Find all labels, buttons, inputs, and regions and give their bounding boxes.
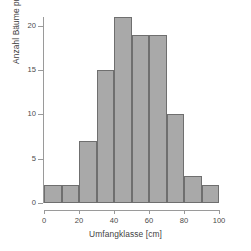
y-tick-label: 5 <box>12 155 36 163</box>
histogram-bar <box>44 185 62 203</box>
x-tick-label: 0 <box>31 216 57 225</box>
plot-area <box>44 17 219 203</box>
histogram-bar <box>62 185 80 203</box>
y-tick-mark <box>38 203 43 204</box>
x-tick-label-text: 0 <box>31 216 57 225</box>
y-tick-mark <box>38 114 43 115</box>
x-tick-label-text: 40 <box>101 216 127 225</box>
x-tick-label: 100 <box>206 216 232 225</box>
y-tick-mark <box>38 26 43 27</box>
y-tick-label: 0 <box>12 199 36 207</box>
y-tick-mark <box>38 159 43 160</box>
x-tick-label-text: 20 <box>66 216 92 225</box>
x-tick-label-text: 60 <box>136 216 162 225</box>
histogram-bar <box>79 141 97 203</box>
x-tick-label-text: 100 <box>206 216 232 225</box>
y-tick-label-text: 20 <box>14 22 36 30</box>
histogram-bar <box>167 114 185 203</box>
x-tick-label-text: 80 <box>171 216 197 225</box>
histogram-bar <box>149 35 167 203</box>
y-tick-label-text: 10 <box>14 110 36 118</box>
y-tick-label: 10 <box>12 110 36 118</box>
y-tick-label-text: 0 <box>14 199 36 207</box>
x-tick-label: 20 <box>66 216 92 225</box>
x-tick-label: 40 <box>101 216 127 225</box>
x-tick-mark <box>219 210 220 214</box>
histogram-bar <box>132 35 150 203</box>
x-axis-line <box>44 210 219 211</box>
histogram-bar <box>184 176 202 203</box>
y-tick-label: 15 <box>12 66 36 74</box>
histogram-bar <box>202 185 220 203</box>
histogram-bar <box>97 70 115 203</box>
x-tick-mark <box>184 210 185 214</box>
x-tick-mark <box>79 210 80 214</box>
y-tick-label: 20 <box>12 22 36 30</box>
x-tick-mark <box>149 210 150 214</box>
histogram-bar <box>114 17 132 203</box>
y-tick-label-text: 5 <box>14 155 36 163</box>
x-axis-label: Umfangklasse [cm] <box>0 229 251 239</box>
x-tick-mark <box>44 210 45 214</box>
y-axis-label: Anzahl Bäume pro Klasse <box>9 0 23 64</box>
x-tick-label: 80 <box>171 216 197 225</box>
x-tick-label: 60 <box>136 216 162 225</box>
y-tick-mark <box>38 70 43 71</box>
histogram-figure: Anzahl Bäume pro Klasse 05101520 0204060… <box>0 0 251 251</box>
y-tick-label-text: 15 <box>14 66 36 74</box>
x-tick-mark <box>114 210 115 214</box>
